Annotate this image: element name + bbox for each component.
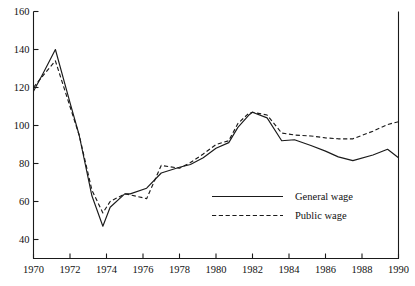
x-tick-label: 1972	[60, 264, 81, 275]
y-tick-label: 120	[14, 82, 30, 93]
legend-label: General wage	[295, 191, 353, 202]
y-tick-label: 80	[19, 158, 30, 169]
x-axis-ticks: 1970197219741976197819801982198419861988…	[23, 254, 409, 275]
line-chart: 406080100120140160 197019721974197619781…	[0, 0, 415, 286]
y-axis-ticks: 406080100120140160	[14, 6, 39, 245]
legend-label: Public wage	[295, 210, 347, 221]
x-tick-label: 1974	[96, 264, 118, 275]
x-tick-label: 1976	[133, 264, 154, 275]
chart-legend: General wagePublic wage	[212, 191, 353, 221]
x-tick-label: 1990	[388, 264, 409, 275]
y-tick-label: 100	[14, 120, 30, 131]
series-line-public-wage	[34, 61, 399, 213]
x-tick-label: 1988	[352, 264, 373, 275]
x-tick-label: 1984	[279, 264, 301, 275]
y-tick-label: 60	[19, 196, 30, 207]
chart-axes	[34, 12, 399, 259]
y-tick-label: 40	[19, 234, 30, 245]
x-tick-label: 1982	[242, 264, 263, 275]
chart-container: 406080100120140160 197019721974197619781…	[0, 0, 415, 286]
x-tick-label: 1986	[315, 264, 336, 275]
x-tick-label: 1978	[169, 264, 190, 275]
y-tick-label: 140	[14, 44, 30, 55]
x-tick-label: 1980	[206, 264, 227, 275]
x-tick-label: 1970	[23, 264, 44, 275]
axis-frame	[34, 12, 399, 259]
y-tick-label: 160	[14, 6, 30, 17]
